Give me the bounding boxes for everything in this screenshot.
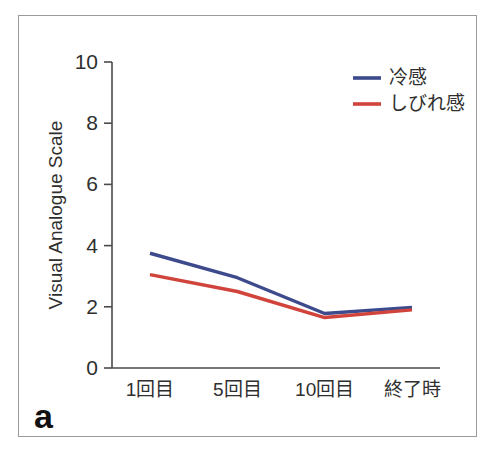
- x-tick-label: 1回目: [126, 379, 175, 400]
- line-chart: 0246810 1回目5回目10回目終了時 Visual Analogue Sc…: [0, 0, 495, 456]
- y-axis-ticks: 0246810: [75, 50, 112, 379]
- chart-svg: 0246810 1回目5回目10回目終了時 Visual Analogue Sc…: [0, 0, 495, 456]
- y-tick-label: 2: [86, 295, 98, 318]
- legend-label-しびれ感: しびれ感: [389, 93, 465, 114]
- series-group: [150, 253, 412, 317]
- y-tick-label: 8: [86, 111, 98, 134]
- y-tick-label: 6: [86, 172, 98, 195]
- x-tick-label: 5回目: [213, 379, 262, 400]
- x-axis-ticks: 1回目5回目10回目終了時: [126, 379, 441, 400]
- x-tick-label: 終了時: [384, 379, 441, 400]
- x-tick-label: 10回目: [295, 379, 354, 400]
- y-tick-label: 10: [75, 50, 98, 73]
- y-tick-label: 4: [86, 234, 98, 257]
- y-axis-title: Visual Analogue Scale: [45, 121, 66, 310]
- figure-root: 0246810 1回目5回目10回目終了時 Visual Analogue Sc…: [0, 0, 495, 456]
- panel-letter: a: [34, 397, 54, 435]
- chart-legend: 冷感しびれ感: [353, 67, 465, 114]
- y-tick-label: 0: [86, 356, 98, 379]
- legend-label-冷感: 冷感: [389, 67, 427, 88]
